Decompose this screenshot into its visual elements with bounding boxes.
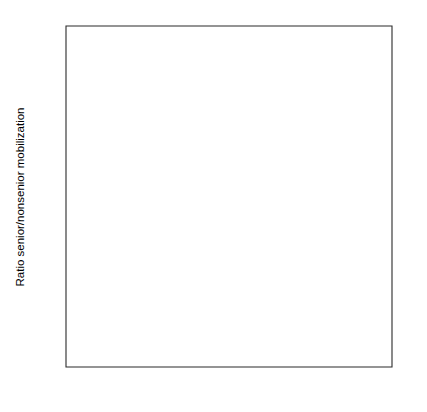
chart-figure: Ratio senior/nonsenior mobilization	[0, 0, 427, 412]
y-axis-title: Ratio senior/nonsenior mobilization	[14, 108, 26, 287]
plot-border	[66, 26, 392, 367]
line-chart: Ratio senior/nonsenior mobilization	[0, 0, 427, 412]
plot-frame	[66, 26, 392, 367]
